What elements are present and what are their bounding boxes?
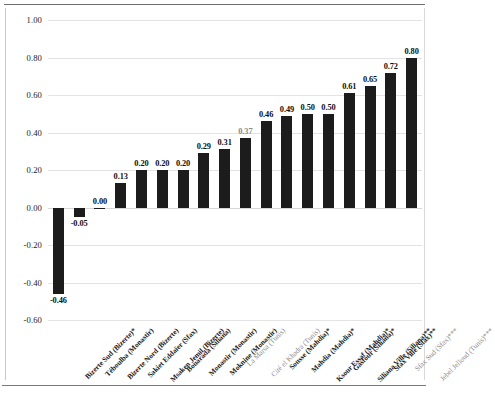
bar-value-label: 0.37 xyxy=(225,127,265,136)
bar-value-label: 0.31 xyxy=(205,138,245,147)
bar[interactable] xyxy=(281,116,292,208)
bar[interactable] xyxy=(157,170,168,208)
bar-value-label: 0.80 xyxy=(392,47,432,56)
figure-border-right xyxy=(424,8,425,380)
bar[interactable] xyxy=(302,114,313,208)
bar[interactable] xyxy=(178,170,189,208)
y-axis-tick-label: 0.40 xyxy=(2,128,42,138)
bar[interactable] xyxy=(323,114,334,208)
bar-value-label: 0.00 xyxy=(80,197,120,206)
bar-value-label: 0.72 xyxy=(371,62,411,71)
bar-value-label: 0.50 xyxy=(309,103,349,112)
y-axis-tick-label: 1.00 xyxy=(2,15,42,25)
gridline--0.20 xyxy=(48,245,422,246)
gridline-1.00 xyxy=(48,20,422,21)
y-axis-tick-label: 0.80 xyxy=(2,53,42,63)
figure-border-bottom xyxy=(2,385,426,386)
y-axis-tick-label: -0.20 xyxy=(2,240,42,250)
bar[interactable] xyxy=(74,208,85,217)
bar-value-label: 0.13 xyxy=(101,172,141,181)
bar-value-label: -0.05 xyxy=(59,219,99,228)
bar[interactable] xyxy=(385,73,396,208)
bar[interactable] xyxy=(94,208,105,209)
bar-value-label: 0.20 xyxy=(163,159,203,168)
plot-area xyxy=(48,20,422,320)
bar[interactable] xyxy=(240,138,251,207)
bar[interactable] xyxy=(406,58,417,208)
y-axis-tick-label: -0.60 xyxy=(2,315,42,325)
y-axis-tick-label: 0.20 xyxy=(2,165,42,175)
gridline--0.40 xyxy=(48,283,422,284)
figure-border-top xyxy=(4,4,425,5)
y-axis-tick-label: 0.00 xyxy=(2,203,42,213)
gridline--0.60 xyxy=(48,320,422,321)
bar[interactable] xyxy=(219,149,230,207)
gridline-0.80 xyxy=(48,58,422,59)
y-axis-tick-label: 0.60 xyxy=(2,90,42,100)
y-axis-tick-label: -0.40 xyxy=(2,278,42,288)
bar[interactable] xyxy=(365,86,376,208)
bar-value-label: 0.65 xyxy=(350,75,390,84)
bar-value-label: -0.46 xyxy=(38,296,78,305)
